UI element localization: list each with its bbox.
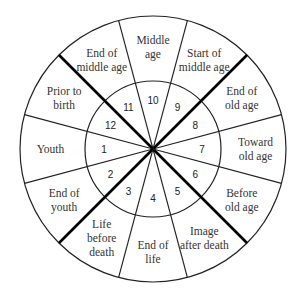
segment-number-1: 1 xyxy=(101,144,107,155)
segment-number-12: 12 xyxy=(105,120,117,131)
segment-label-2: End ofyouth xyxy=(49,187,80,214)
segment-number-10: 10 xyxy=(147,95,159,106)
segment-label-12: Prior tobirth xyxy=(47,85,82,111)
segment-label-9: Start ofmiddle age xyxy=(179,47,230,74)
life-cycle-wheel: 1Youth2End ofyouth3Lifebeforedeath4End o… xyxy=(0,0,305,292)
segment-label-8: End ofold age xyxy=(225,85,259,112)
segment-label-7: Towardold age xyxy=(238,136,273,163)
segment-number-9: 9 xyxy=(175,102,181,113)
segment-label-6: Beforeold age xyxy=(225,187,259,214)
segment-number-7: 7 xyxy=(199,144,205,155)
segment-number-4: 4 xyxy=(150,193,156,204)
segment-number-11: 11 xyxy=(123,102,134,113)
segment-label-10: Middleage xyxy=(136,34,169,61)
segment-number-6: 6 xyxy=(193,169,199,180)
segment-label-1: Youth xyxy=(37,143,65,155)
segment-label-5: Imageafter death xyxy=(180,225,229,251)
segment-label-11: End ofmiddle age xyxy=(76,47,127,74)
segment-number-8: 8 xyxy=(193,120,199,131)
segment-label-3: Lifebeforedeath xyxy=(87,218,116,258)
segment-number-2: 2 xyxy=(108,169,114,180)
segment-number-5: 5 xyxy=(175,186,181,197)
segment-label-4: End oflife xyxy=(138,239,169,265)
segment-number-3: 3 xyxy=(126,186,132,197)
